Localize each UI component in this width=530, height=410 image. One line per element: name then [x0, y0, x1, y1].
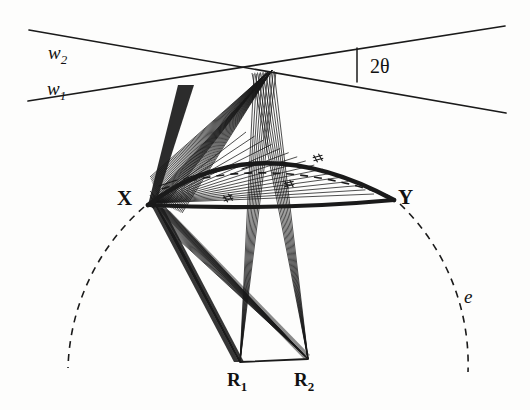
label-w2-subscript: 2	[61, 52, 67, 67]
hatch-mark	[312, 153, 324, 163]
label-w1-subscript: 1	[60, 88, 66, 103]
label-r2-subscript: 2	[308, 379, 314, 394]
label-w2: w2	[48, 42, 67, 68]
ray-r2-up	[274, 71, 308, 359]
label-two-theta: 2θ	[370, 55, 390, 78]
label-w1-base: w	[47, 78, 60, 99]
hatch-stroke	[290, 179, 294, 187]
hatch-stroke	[314, 155, 318, 163]
label-point-r2: R2	[294, 369, 314, 395]
label-w1: w1	[47, 78, 66, 104]
label-point-r1: R1	[227, 369, 247, 395]
label-w2-base: w	[48, 42, 61, 63]
figure-canvas: w2 w1 2θ X Y R1 R2 e	[0, 0, 530, 410]
label-point-x: X	[117, 186, 132, 211]
segment-r1-r2	[240, 359, 308, 362]
hatch-stroke	[318, 153, 322, 161]
diagram-vector-art	[0, 0, 530, 410]
label-circle-e: e	[464, 286, 472, 308]
label-r1-base: R	[227, 369, 241, 390]
label-point-y: Y	[398, 185, 413, 210]
label-r1-subscript: 1	[241, 379, 247, 394]
label-r2-base: R	[294, 369, 308, 390]
dashed-circle-e	[68, 204, 468, 372]
